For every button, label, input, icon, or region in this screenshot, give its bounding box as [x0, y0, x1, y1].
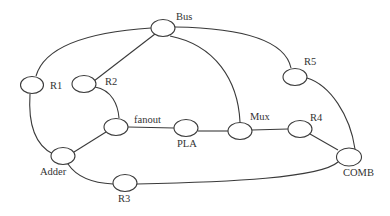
node-mux-shape[interactable] — [228, 123, 252, 140]
edge-bus-r5 — [175, 27, 291, 68]
node-r5-shape[interactable] — [283, 69, 307, 86]
edge-r1-adder — [30, 94, 53, 154]
edge-fanout-pla — [128, 127, 174, 128]
node-bus-shape[interactable] — [151, 20, 175, 37]
node-fanout-shape[interactable] — [104, 119, 128, 136]
node-adder-label: Adder — [40, 166, 67, 177]
edges — [30, 27, 355, 184]
node-pla-label: PLA — [177, 138, 197, 149]
circuit-graph-diagram: Bus R1 R2 R5 fanout PLA Mux R4 — [0, 0, 390, 216]
node-fanout[interactable]: fanout — [104, 114, 161, 136]
node-r5-label: R5 — [304, 56, 316, 67]
node-pla[interactable]: PLA — [174, 120, 198, 150]
node-comb[interactable]: COMB — [337, 148, 374, 178]
node-r3[interactable]: R3 — [113, 175, 137, 205]
node-r1-shape[interactable] — [21, 77, 44, 94]
edge-bus-r1 — [36, 28, 151, 76]
node-fanout-label: fanout — [134, 114, 161, 125]
edge-r4-comb — [310, 134, 338, 150]
edge-bus-r2 — [94, 34, 155, 81]
edge-bus-mux — [170, 36, 240, 122]
edge-r2-fanout — [95, 87, 119, 118]
node-r2[interactable]: R2 — [72, 76, 117, 93]
node-mux[interactable]: Mux — [228, 111, 271, 140]
node-r1-label: R1 — [50, 80, 62, 91]
node-r1[interactable]: R1 — [21, 77, 63, 94]
node-mux-label: Mux — [250, 111, 271, 122]
node-adder-shape[interactable] — [51, 148, 75, 165]
node-r4-label: R4 — [310, 112, 323, 123]
edge-r3-comb — [137, 162, 338, 184]
node-comb-label: COMB — [343, 167, 374, 178]
node-r3-label: R3 — [118, 193, 130, 204]
edge-fanout-adder — [74, 132, 106, 152]
node-comb-shape[interactable] — [337, 148, 362, 166]
nodes: Bus R1 R2 R5 fanout PLA Mux R4 — [21, 11, 374, 204]
node-r3-shape[interactable] — [113, 175, 137, 192]
node-r4[interactable]: R4 — [288, 112, 323, 138]
node-pla-shape[interactable] — [174, 120, 198, 137]
edge-mux-r4 — [252, 129, 288, 130]
node-r2-label: R2 — [105, 76, 117, 87]
node-r2-shape[interactable] — [72, 76, 96, 93]
node-r4-shape[interactable] — [288, 121, 312, 138]
node-bus-label: Bus — [176, 11, 192, 22]
node-bus[interactable]: Bus — [151, 11, 192, 37]
edge-adder-r3 — [68, 164, 113, 184]
node-adder[interactable]: Adder — [40, 148, 75, 178]
